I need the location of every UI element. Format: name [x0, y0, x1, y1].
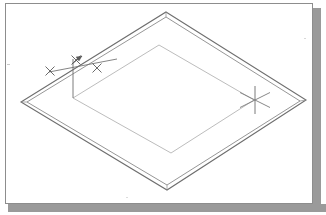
window-shadow-bottom — [8, 204, 326, 212]
paper-speckle — [7, 64, 10, 65]
paper-speckle — [126, 197, 128, 198]
drawing-canvas-frame — [5, 3, 313, 204]
outer-plate-thickness-edge — [27, 17, 300, 185]
isometric-drawing[interactable] — [6, 4, 312, 203]
outer-plate-top-face — [21, 12, 306, 190]
inner-cutout-rectangle — [73, 45, 254, 153]
dimension-leader-line — [49, 59, 117, 72]
isometric-crosshair-cursor[interactable] — [240, 86, 270, 114]
screenshot-root — [0, 0, 326, 215]
plate-corner-mitres — [21, 12, 306, 190]
paper-speckle — [304, 38, 306, 39]
dimension-tick-marks — [46, 56, 102, 76]
offset-dimension-annotation — [46, 56, 118, 99]
window-shadow-right — [313, 8, 321, 212]
